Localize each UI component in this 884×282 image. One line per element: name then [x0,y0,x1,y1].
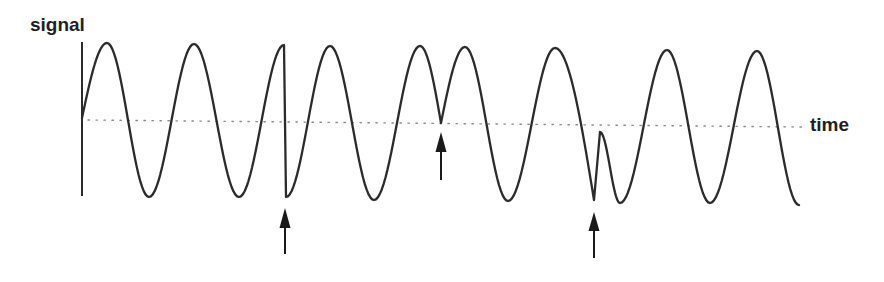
arrow-head [280,208,291,228]
arrow-up-icon [280,208,291,254]
plot-canvas [0,0,884,282]
x-axis-label: time [810,115,849,134]
signal-diagram: signal time [0,0,884,282]
y-axis-label: signal [30,15,85,34]
arrow-head [589,212,600,231]
arrow-up-icon [436,132,447,180]
arrow-head [436,132,447,152]
discontinuity-arrows [280,132,600,258]
time-baseline-dotted [88,120,802,127]
arrow-up-icon [589,212,600,258]
signal-waveform [82,43,799,205]
